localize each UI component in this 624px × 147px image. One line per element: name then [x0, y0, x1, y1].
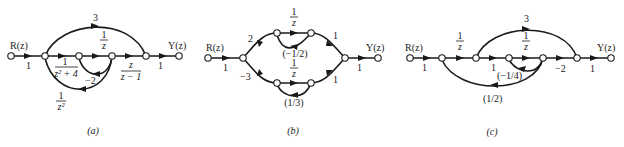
diagram-b-gain-output: 1 [357, 62, 362, 73]
diagram-b-arrow-upper-delay [290, 30, 298, 36]
diagram-b-node-output [375, 55, 381, 61]
diagram-a: R(z) Y(z) 1 1 3 1 z² + 4 1 z z z − 1 −2 … [8, 12, 187, 137]
diagram-b-arrow-input [222, 55, 230, 61]
diagram-c-delay1-denominator: z [457, 41, 462, 52]
diagram-a-input-label: R(z) [10, 40, 28, 52]
diagram-a-g2-numerator: 1 [102, 29, 107, 40]
diagram-b-arrow-lower-delay [290, 80, 298, 86]
diagram-a-gain-input: 1 [26, 60, 31, 71]
diagram-a-gain-inner-feedback: −2 [85, 75, 96, 86]
diagram-a-g3-numerator: z [128, 59, 133, 70]
diagram-b-arrow-lower-split [257, 69, 263, 76]
diagram-a-arrow-outer-feedback [78, 86, 86, 92]
diagram-c-arrow-outer-feedback [490, 82, 498, 88]
diagram-a-g2-denominator: z [101, 40, 106, 51]
diagram-c: R(z) Y(z) 1 1 z 3 1 z 1 (−1/4) −2 1 (1/2… [405, 13, 615, 138]
diagram-b-gain-lower-split: −3 [240, 71, 251, 82]
diagram-a-node-input [8, 53, 14, 59]
diagram-b-node-split [240, 55, 246, 61]
diagram-b-input-label: R(z) [206, 42, 224, 54]
diagram-c-arrow-output [590, 55, 598, 61]
diagram-a-arrow-g2 [92, 53, 100, 59]
diagram-c-gain-input: 1 [422, 62, 427, 73]
diagram-c-gain-outer-feedback: (1/2) [483, 93, 502, 105]
diagram-b-output-label: Y(z) [366, 42, 384, 54]
diagram-c-delay1-numerator: 1 [458, 30, 463, 41]
diagram-a-node-4 [143, 53, 149, 59]
diagram-a-caption: (a) [87, 125, 99, 137]
diagram-a-node-1 [42, 53, 48, 59]
diagram-b-node-upper-left [274, 30, 280, 36]
diagram-a-outer-fb-numerator: 1 [59, 90, 64, 101]
diagram-a-feedforward-arc [45, 27, 146, 56]
diagram-b-gain-lower-feedback: (1/3) [284, 97, 303, 109]
diagram-b-lower-delay-denominator: z [291, 68, 296, 79]
diagram-a-arrow-feedforward [91, 23, 99, 29]
diagram-c-arrow-unity [489, 55, 497, 61]
diagram-c-node-5 [574, 55, 580, 61]
diagram-a-gain-output: 1 [158, 60, 163, 71]
signal-flow-graphs-figure: R(z) Y(z) 1 1 3 1 z² + 4 1 z z z − 1 −2 … [0, 0, 624, 147]
diagram-c-output-label: Y(z) [597, 42, 615, 54]
diagram-a-arrow-output [159, 53, 167, 59]
diagram-a-gain-feedforward: 3 [93, 12, 98, 23]
diagram-b-node-lower-right [308, 80, 314, 86]
diagram-b-arrow-output [358, 55, 366, 61]
diagram-c-node-2 [473, 55, 479, 61]
diagram-c-delay2-numerator: 1 [524, 30, 529, 41]
diagram-b-gain-upper-split: 2 [248, 33, 253, 44]
diagram-c-gain-inner-feedback: (−1/4) [497, 70, 522, 82]
diagram-b-lower-delay-numerator: 1 [292, 57, 297, 68]
diagram-b-node-merge [342, 55, 348, 61]
diagram-c-caption: (c) [486, 126, 498, 138]
diagram-c-node-4 [540, 55, 546, 61]
diagram-c-arrow-delay1 [456, 55, 464, 61]
diagram-c-node-output [608, 55, 614, 61]
diagram-c-node-input [407, 55, 413, 61]
diagram-b-arrow-upper-split [257, 40, 263, 47]
diagram-a-node-output [176, 53, 182, 59]
diagram-a-node-2 [76, 53, 82, 59]
diagram-c-arrow-neg2 [556, 55, 564, 61]
diagram-c-gain-output: 1 [590, 63, 595, 74]
diagram-b-gain-lower-merge: 1 [333, 74, 338, 85]
diagram-c-node-1 [439, 55, 445, 61]
diagram-a-g1-denominator: z² + 4 [53, 68, 78, 79]
diagram-a-output-label: Y(z) [168, 40, 186, 52]
diagram-a-g1-numerator: 1 [63, 56, 68, 67]
diagram-c-node-3 [506, 55, 512, 61]
diagram-a-g3-denominator: z − 1 [120, 71, 142, 82]
diagram-b-caption: (b) [287, 125, 299, 137]
diagram-c-gain-neg2: −2 [555, 63, 566, 74]
diagram-c-gain-unity: 1 [491, 62, 496, 73]
diagram-a-node-3 [109, 53, 115, 59]
diagram-b-node-lower-left [274, 80, 280, 86]
diagram-c-arrow-delay2 [522, 55, 530, 61]
diagram-c-input-label: R(z) [405, 42, 423, 54]
diagram-b-upper-delay-numerator: 1 [292, 6, 297, 17]
diagram-c-gain-feedforward: 3 [524, 13, 529, 24]
diagram-b: R(z) Y(z) 1 1 2 −3 1 z (−1/2) 1 z (1/3) … [205, 6, 385, 137]
diagram-b-gain-upper-merge: 1 [333, 30, 338, 41]
diagram-b-node-input [205, 55, 211, 61]
diagram-c-arrow-input [423, 55, 431, 61]
diagram-b-node-upper-right [308, 30, 314, 36]
diagram-c-delay2-denominator: z [523, 41, 528, 52]
diagram-a-outer-fb-denominator: z² [57, 101, 66, 112]
diagram-b-gain-input: 1 [223, 62, 228, 73]
diagram-b-upper-delay-denominator: z [291, 17, 296, 28]
diagram-a-arrow-input [24, 53, 32, 59]
